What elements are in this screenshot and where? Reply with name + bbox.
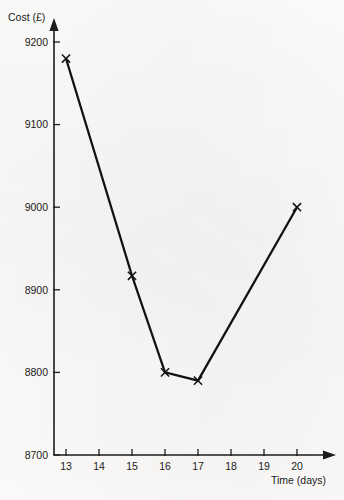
y-tick-label: 9000 — [25, 201, 49, 213]
x-tick-label: 18 — [225, 460, 237, 472]
y-tick-label: 8900 — [25, 284, 49, 296]
x-tick-label: 15 — [126, 460, 138, 472]
x-tick-label: 20 — [291, 460, 303, 472]
cost-series-line — [66, 59, 297, 381]
chart-figure: Cost (£) Time (days) 8700880089009000910… — [0, 0, 344, 500]
y-tick-label: 8700 — [25, 449, 49, 461]
y-axis-title: Cost (£) — [8, 11, 45, 23]
y-tick-label: 8800 — [25, 366, 49, 378]
x-tick-label: 19 — [258, 460, 270, 472]
x-tick-label: 13 — [60, 460, 72, 472]
data-point-marker — [293, 203, 301, 211]
line-chart-plot: Cost (£) Time (days) 8700880089009000910… — [0, 0, 344, 500]
x-tick-label: 16 — [159, 460, 171, 472]
cost-series-markers — [62, 54, 301, 384]
y-axis-arrow-icon — [49, 18, 58, 31]
x-tick-label: 17 — [192, 460, 204, 472]
y-tick-label: 9100 — [25, 118, 49, 130]
x-axis-title: Time (days) — [271, 474, 326, 486]
x-axis-arrow-icon — [323, 450, 336, 459]
x-axis-ticks: 1314151617181920 — [60, 449, 303, 472]
x-tick-label: 14 — [93, 460, 105, 472]
y-tick-label: 9200 — [25, 36, 49, 48]
